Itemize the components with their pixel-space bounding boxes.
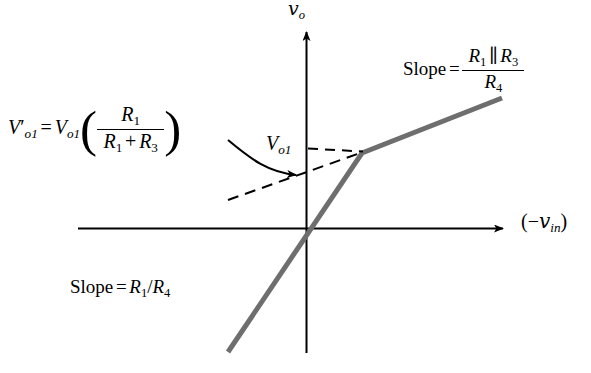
x-axis-label-minus: −	[528, 210, 539, 232]
breakpoint-label-subscript: o1	[278, 142, 291, 157]
formula-lhs-subscript: o1	[25, 126, 38, 141]
denominator-plus-sign: +	[122, 130, 139, 152]
slope-bottom-text: Slope	[70, 276, 113, 297]
parallel-operator-icon: ∥	[486, 45, 500, 66]
slope-top-denominator: R4	[462, 71, 524, 95]
breakpoint-label-variable: V	[266, 132, 278, 154]
slope-top-numerator-subscript-2: 3	[512, 55, 518, 69]
y-axis-label-variable: v	[288, 0, 299, 19]
slope-bottom-equals-sign: =	[113, 276, 129, 297]
formula-rhs-variable: V	[55, 116, 67, 138]
transfer-characteristic-figure: vo (−vin) V′o1=Vo1(R1R1+R3) Vo1 Slope=R1…	[0, 0, 591, 373]
upper-segment-slope-label: Slope=R1∥R3R4	[403, 46, 524, 95]
formula-close-paren: )	[164, 109, 181, 151]
y-axis-label: vo	[288, 0, 305, 22]
slope-top-text: Slope	[403, 58, 446, 79]
slope-top-denominator-subscript: 4	[496, 81, 502, 95]
breakpoint-level-dashed-line	[308, 149, 363, 152]
x-axis-label-close-paren: )	[561, 210, 568, 232]
breakpoint-voltage-label: Vo1	[266, 133, 291, 157]
x-axis-label-subscript: in	[550, 220, 560, 235]
slope-bottom-denominator-variable: R	[152, 276, 164, 297]
slope-top-numerator: R1∥R3	[462, 46, 524, 71]
lower-segment-slope-label: Slope=R1/R4	[70, 277, 170, 300]
numerator-variable: R	[121, 103, 133, 125]
x-axis-label: (−vin)	[521, 211, 567, 235]
denominator-variable-1: R	[103, 130, 115, 152]
slope-top-numerator-variable-1: R	[468, 45, 480, 66]
slope-top-fraction: R1∥R3R4	[462, 46, 524, 95]
formula-lhs-variable: V	[8, 116, 20, 138]
x-axis-label-open-paren: (	[521, 210, 528, 232]
formula-fraction: R1R1+R3	[97, 104, 164, 155]
denominator-variable-2: R	[139, 130, 151, 152]
formula-numerator: R1	[97, 104, 164, 130]
slope-bottom-numerator-variable: R	[129, 276, 141, 297]
slope-top-numerator-variable-2: R	[500, 45, 512, 66]
formula-denominator: R1+R3	[97, 130, 164, 155]
numerator-subscript: 1	[134, 113, 141, 128]
denominator-subscript-2: 3	[151, 140, 158, 155]
slope-bottom-denominator-subscript: 4	[164, 286, 170, 300]
output-voltage-divided-formula: V′o1=Vo1(R1R1+R3)	[8, 104, 181, 155]
slope-top-denominator-variable: R	[484, 71, 496, 92]
y-axis-label-subscript: o	[299, 8, 305, 22]
x-axis-label-variable: v	[539, 209, 550, 233]
slope-top-equals-sign: =	[446, 58, 462, 79]
formula-equals-sign: =	[38, 116, 55, 138]
formula-rhs-subscript: o1	[67, 126, 80, 141]
formula-open-paren: (	[80, 109, 97, 151]
